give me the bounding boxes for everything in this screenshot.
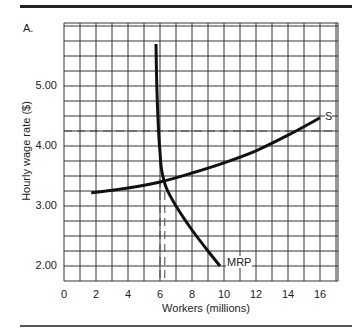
- mrp-curve-label: MRP: [226, 256, 252, 268]
- x-axis-label: Workers (millions): [0, 302, 352, 314]
- y-tick-label: 2.00: [17, 259, 57, 271]
- y-tick-label: 5.00: [17, 79, 57, 91]
- x-tick-label: 10: [214, 288, 234, 300]
- supply-curve: [91, 118, 320, 193]
- bottom-rule: [20, 325, 352, 327]
- x-tick-label: 4: [118, 288, 138, 300]
- x-tick-label: 0: [54, 288, 74, 300]
- x-tick-label: 2: [86, 288, 106, 300]
- x-tick-label: 14: [278, 288, 298, 300]
- supply-curve-label: S: [325, 110, 332, 122]
- mrp-curve: [156, 44, 220, 266]
- x-tick-label: 8: [182, 288, 202, 300]
- x-tick-label: 12: [246, 288, 266, 300]
- y-axis-label: Hourly wage rate ($): [20, 91, 32, 211]
- x-tick-label: 16: [310, 288, 330, 300]
- x-tick-label: 6: [150, 288, 170, 300]
- chart-plot: [0, 0, 352, 333]
